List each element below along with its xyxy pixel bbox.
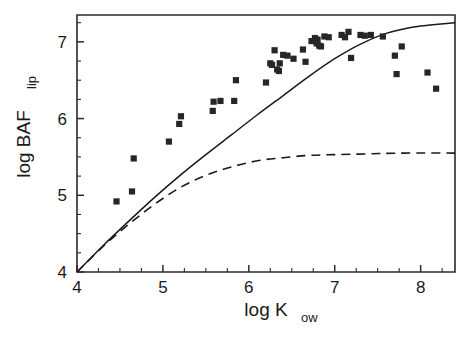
scatter-marker bbox=[217, 98, 223, 104]
scatter-marker bbox=[368, 32, 374, 38]
scatter-marker bbox=[231, 98, 237, 104]
x-tick-label: 6 bbox=[244, 278, 253, 297]
scatter-marker bbox=[284, 53, 290, 59]
scatter-markers bbox=[113, 29, 439, 205]
scatter-marker bbox=[399, 43, 405, 49]
chart-figure: 45678 4567 log K ow log BAF lip bbox=[0, 0, 474, 338]
scatter-marker bbox=[348, 55, 354, 61]
scatter-marker bbox=[433, 86, 439, 92]
scatter-marker bbox=[276, 68, 282, 74]
plot-frame bbox=[77, 15, 455, 272]
x-axis-title-group: log K ow bbox=[244, 299, 318, 325]
scatter-marker bbox=[113, 198, 119, 204]
x-axis-title: log K bbox=[244, 299, 288, 320]
scatter-marker bbox=[271, 47, 277, 53]
scatter-marker bbox=[129, 188, 135, 194]
scatter-marker bbox=[277, 60, 283, 66]
y-tick-label: 6 bbox=[58, 110, 67, 129]
y-tick-label: 5 bbox=[58, 186, 67, 205]
y-axis-title-group: log BAF lip bbox=[13, 76, 39, 178]
scatter-marker bbox=[210, 108, 216, 114]
model-curve-solid bbox=[77, 23, 455, 272]
scatter-marker bbox=[392, 53, 398, 59]
x-tick-label: 5 bbox=[158, 278, 167, 297]
data-series-group bbox=[77, 23, 455, 272]
scatter-marker bbox=[210, 99, 216, 105]
scatter-marker bbox=[314, 36, 320, 42]
scatter-marker bbox=[393, 71, 399, 77]
model-curve-dashed bbox=[77, 153, 455, 272]
scatter-marker bbox=[326, 34, 332, 40]
y-axis-tick-labels: 4567 bbox=[58, 33, 67, 282]
x-axis-tick-labels: 45678 bbox=[72, 278, 425, 297]
scatter-marker bbox=[166, 138, 172, 144]
scatter-marker bbox=[178, 113, 184, 119]
scatter-marker bbox=[302, 59, 308, 65]
x-tick-label: 8 bbox=[416, 278, 425, 297]
x-tick-label: 4 bbox=[72, 278, 81, 297]
x-tick-label: 7 bbox=[330, 278, 339, 297]
scatter-marker bbox=[176, 121, 182, 127]
scatter-marker bbox=[263, 79, 269, 85]
scatter-plot-canvas: 45678 4567 log K ow log BAF lip bbox=[0, 0, 474, 338]
axis-ticks bbox=[77, 23, 442, 272]
scatter-marker bbox=[300, 46, 306, 52]
scatter-marker bbox=[290, 56, 296, 62]
y-axis-title: log BAF bbox=[13, 110, 34, 178]
y-tick-label: 7 bbox=[58, 33, 67, 52]
scatter-marker bbox=[380, 33, 386, 39]
scatter-marker bbox=[362, 33, 368, 39]
y-tick-label: 4 bbox=[58, 263, 67, 282]
scatter-marker bbox=[233, 77, 239, 83]
scatter-marker bbox=[424, 69, 430, 75]
scatter-marker bbox=[342, 34, 348, 40]
scatter-marker bbox=[318, 43, 324, 49]
y-axis-title-subscript: lip bbox=[24, 76, 39, 89]
axis-frame-lines bbox=[77, 15, 455, 272]
scatter-marker bbox=[345, 29, 351, 35]
scatter-marker bbox=[131, 155, 137, 161]
x-axis-title-subscript: ow bbox=[301, 310, 318, 325]
